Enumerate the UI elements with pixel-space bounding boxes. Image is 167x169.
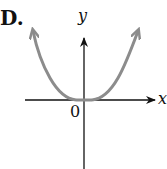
y-axis-label: y <box>78 6 87 25</box>
origin-label: 0 <box>70 102 80 121</box>
graph <box>0 0 167 169</box>
x-axis-label: x <box>158 89 167 108</box>
curve-left-branch <box>33 31 76 100</box>
curve-right-branch <box>92 31 138 100</box>
